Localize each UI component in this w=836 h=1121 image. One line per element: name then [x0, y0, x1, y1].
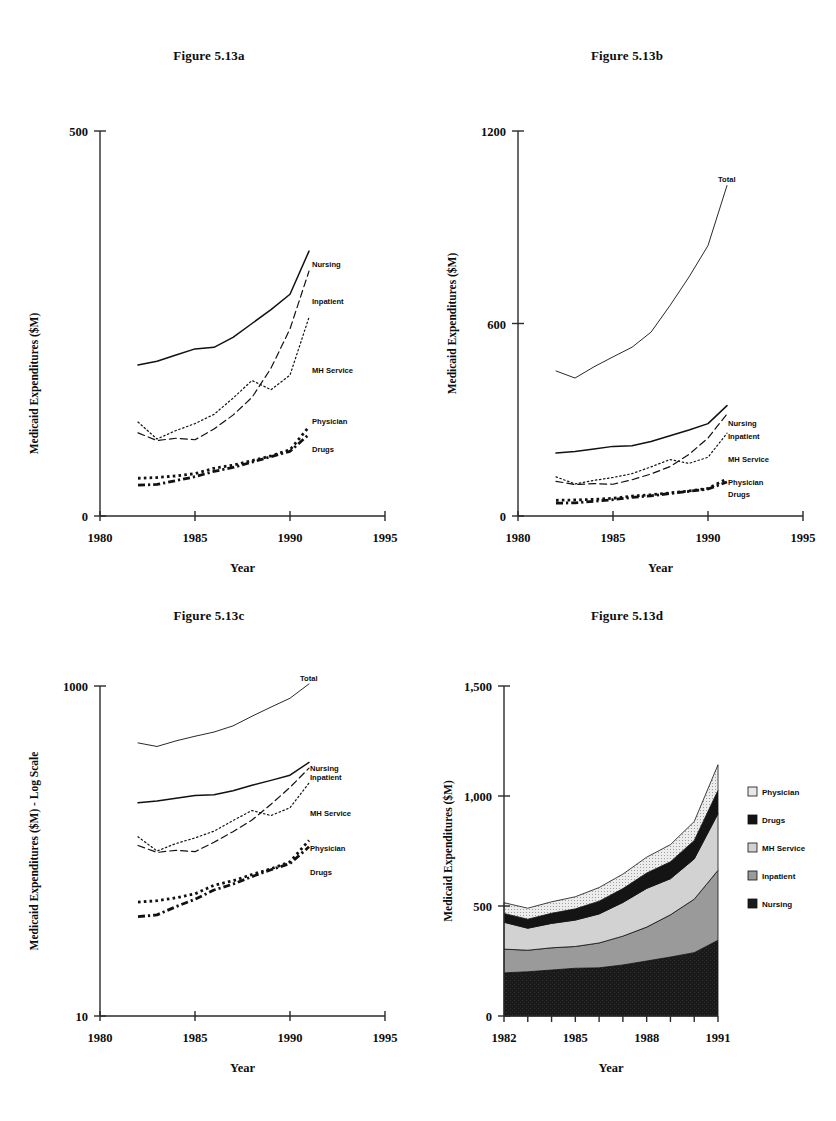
- plot-area-d: 05001,0001,5001982198519881991YearMedica…: [418, 624, 836, 1084]
- x-tick-label: 1988: [634, 1031, 659, 1045]
- figure-title-b: Figure 5.13b: [418, 48, 836, 64]
- y-tick-label: 1200: [481, 125, 506, 139]
- y-tick-label: 10: [76, 1010, 89, 1024]
- series-line-mh-service: [556, 433, 727, 484]
- legend-item-mh-service[interactable]: MH Service: [748, 843, 806, 853]
- series-line-nursing: [556, 406, 727, 453]
- y-axis-title: Medicaid Expenditures ($M): [446, 253, 459, 395]
- y-axis-title: Medicaid Expenditures ($M): [28, 313, 41, 455]
- plot-area-b: 060012001980198519901995TotalNursingInpa…: [418, 64, 836, 534]
- series-label-total: Total: [300, 674, 318, 683]
- y-axis-title: Medicaid Expenditures ($M): [442, 780, 455, 922]
- x-axis-title: Year: [599, 1061, 624, 1075]
- series-label-mh-service: MH Service: [728, 455, 769, 464]
- x-tick-label: 1985: [183, 1031, 208, 1045]
- series-label-inpatient: Inpatient: [310, 773, 342, 782]
- x-axis-title: Year: [230, 1061, 255, 1075]
- figure-title-d: Figure 5.13d: [418, 608, 836, 624]
- x-tick-label: 1990: [278, 531, 303, 545]
- legend-item-drugs[interactable]: Drugs: [748, 815, 786, 825]
- legend-swatch: [748, 843, 757, 852]
- x-tick-label: 1980: [506, 531, 531, 545]
- series-label-physician: Physician: [310, 844, 346, 853]
- x-tick-label: 1995: [373, 531, 398, 545]
- figure-panel-d: Figure 5.13d 05001,0001,5001982198519881…: [418, 608, 836, 1084]
- figure-title-c: Figure 5.13c: [0, 608, 418, 624]
- series-label-mh-service: MH Service: [310, 809, 351, 818]
- legend-label: Inpatient: [762, 872, 796, 881]
- legend-label: MH Service: [762, 844, 806, 853]
- chart-svg-d: 05001,0001,5001982198519881991YearMedica…: [418, 624, 836, 1084]
- y-tick-label: 0: [500, 510, 506, 524]
- x-tick-label: 1985: [601, 531, 626, 545]
- legend-swatch: [748, 871, 757, 880]
- x-tick-label: 1995: [791, 531, 816, 545]
- y-tick-label: 1,000: [464, 790, 492, 804]
- plot-area-a: 05001980198519901995NursingInpatientMH S…: [0, 64, 418, 534]
- series-label-drugs: Drugs: [310, 868, 332, 877]
- y-tick-label: 500: [473, 900, 492, 914]
- legend-item-nursing[interactable]: Nursing: [748, 899, 792, 909]
- legend-item-physician[interactable]: Physician: [748, 787, 799, 797]
- x-tick-label: 1982: [492, 1031, 517, 1045]
- legend-label: Physician: [762, 788, 799, 797]
- series-line-inpatient: [556, 414, 727, 485]
- series-line-inpatient: [138, 271, 309, 440]
- chart-svg-c: 1010001980198519901995TotalNursingInpati…: [0, 624, 418, 1084]
- x-tick-label: 1980: [88, 531, 113, 545]
- y-tick-label: 500: [69, 125, 88, 139]
- figure-panel-a: Figure 5.13a 05001980198519901995Nursing…: [0, 48, 418, 534]
- legend-swatch: [748, 815, 757, 824]
- series-label-drugs: Drugs: [728, 490, 750, 499]
- x-axis-title: Year: [648, 561, 673, 575]
- legend-swatch: [748, 787, 757, 796]
- series-label-physician: Physician: [728, 478, 764, 487]
- legend-label: Nursing: [762, 900, 792, 909]
- legend-item-inpatient[interactable]: Inpatient: [748, 871, 796, 881]
- chart-svg-b: 060012001980198519901995TotalNursingInpa…: [418, 64, 836, 534]
- x-tick-label: 1995: [373, 1031, 398, 1045]
- figure-title-a: Figure 5.13a: [0, 48, 418, 64]
- series-label-total: Total: [718, 175, 736, 184]
- y-tick-label: 0: [82, 510, 88, 524]
- figure-panel-b: Figure 5.13b 060012001980198519901995Tot…: [418, 48, 836, 534]
- series-line-total: [556, 186, 727, 379]
- x-tick-label: 1990: [278, 1031, 303, 1045]
- plot-area-c: 1010001980198519901995TotalNursingInpati…: [0, 624, 418, 1084]
- x-axis-title: Year: [230, 561, 255, 575]
- series-label-inpatient: Inpatient: [728, 432, 760, 441]
- series-line-mh-service: [138, 317, 309, 439]
- chart-svg-a: 05001980198519901995NursingInpatientMH S…: [0, 64, 418, 534]
- series-line-physician: [138, 840, 309, 902]
- series-line-physician: [556, 479, 727, 501]
- series-label-nursing: Nursing: [310, 764, 339, 773]
- y-axis-title: Medicaid Expenditures ($M) - Log Scale: [28, 752, 41, 951]
- x-tick-label: 1985: [183, 531, 208, 545]
- x-tick-label: 1980: [88, 1031, 113, 1045]
- series-label-inpatient: Inpatient: [312, 297, 344, 306]
- series-label-mh-service: MH Service: [312, 366, 353, 375]
- legend-label: Drugs: [762, 816, 786, 825]
- legend-swatch: [748, 899, 757, 908]
- series-line-nursing: [138, 251, 309, 365]
- x-tick-label: 1991: [706, 1031, 731, 1045]
- y-tick-label: 1,500: [464, 680, 492, 694]
- series-label-nursing: Nursing: [728, 419, 757, 428]
- y-tick-label: 0: [486, 1010, 492, 1024]
- document-page: Figure 5.13a 05001980198519901995Nursing…: [0, 0, 836, 1121]
- series-line-total: [138, 684, 309, 747]
- series-label-drugs: Drugs: [312, 445, 334, 454]
- y-tick-label: 1000: [63, 680, 88, 694]
- x-tick-label: 1985: [563, 1031, 588, 1045]
- series-line-nursing: [138, 762, 309, 802]
- figure-panel-c: Figure 5.13c 1010001980198519901995Total…: [0, 608, 418, 1084]
- series-label-physician: Physician: [312, 417, 348, 426]
- x-tick-label: 1990: [696, 531, 721, 545]
- y-tick-label: 600: [487, 318, 506, 332]
- series-label-nursing: Nursing: [312, 260, 341, 269]
